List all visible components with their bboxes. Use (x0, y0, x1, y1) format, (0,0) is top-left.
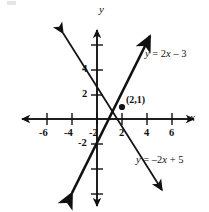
x-tick-label-6: 6 (169, 128, 174, 139)
x-tick-label-neg6: -6 (39, 128, 48, 139)
x-tick-label-neg2: -2 (89, 128, 98, 139)
intersection-point-dot (119, 104, 125, 110)
y-axis (91, 30, 103, 206)
graph-canvas (0, 0, 209, 212)
x-tick-label-neg4: -4 (64, 128, 73, 139)
line-y-equals-2x-minus-3 (72, 36, 150, 193)
intersection-point-label: (2,1) (126, 95, 145, 105)
equation-label-line2: y = –2x + 5 (136, 155, 183, 166)
equation-label-line1: y = 2x – 3 (145, 49, 187, 60)
equation-label-line2-tail: + 5 (167, 154, 183, 165)
x-tick-label-2: 2 (119, 128, 124, 139)
y-axis-label: y (99, 4, 104, 15)
equation-label-line1-op: = 2 (150, 48, 166, 59)
y-tick-label-neg2: -2 (78, 138, 87, 149)
equation-label-line2-op: = –2 (141, 154, 163, 165)
y-tick-label-2: 2 (82, 89, 87, 100)
x-tick-label-4: 4 (144, 128, 149, 139)
y-tick-label-4: 4 (82, 64, 87, 75)
x-axis-label: x (190, 112, 195, 123)
equation-label-line1-tail: – 3 (171, 48, 187, 59)
coordinate-graph-figure: x y -6 -4 -2 2 4 6 4 2 -2 y = 2x – 3 y =… (0, 0, 209, 212)
